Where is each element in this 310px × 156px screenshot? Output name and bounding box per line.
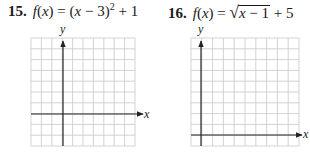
coordinate-grid-15[interactable] [31, 38, 135, 146]
graph-layer [0, 0, 310, 156]
axes-15 [31, 41, 143, 146]
coordinate-grid-16[interactable] [191, 38, 299, 146]
axes-16 [191, 41, 302, 146]
